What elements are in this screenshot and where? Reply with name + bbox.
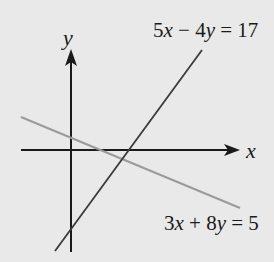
eq1-mid: − 4 — [173, 18, 206, 42]
y-axis-label: y — [63, 27, 73, 49]
eq1-var-x: x — [164, 18, 173, 42]
eq2-mid: + 8 — [184, 211, 217, 235]
equation-label-line-1: 5x − 4y = 17 — [153, 20, 258, 41]
coordinate-diagram: y x 5x − 4y = 17 3x + 8y = 5 — [0, 0, 274, 262]
x-axis-label: x — [246, 140, 256, 162]
eq2-var-x: x — [175, 211, 184, 235]
eq2-coef: 3 — [164, 211, 175, 235]
line-3x-plus-8y-eq-5 — [21, 117, 240, 208]
equation-label-line-2: 3x + 8y = 5 — [164, 213, 259, 234]
eq2-rhs: = 5 — [226, 211, 259, 235]
eq2-var-y: y — [217, 211, 226, 235]
eq1-var-y: y — [206, 18, 215, 42]
eq1-rhs: = 17 — [215, 18, 258, 42]
eq1-coef: 5 — [153, 18, 164, 42]
